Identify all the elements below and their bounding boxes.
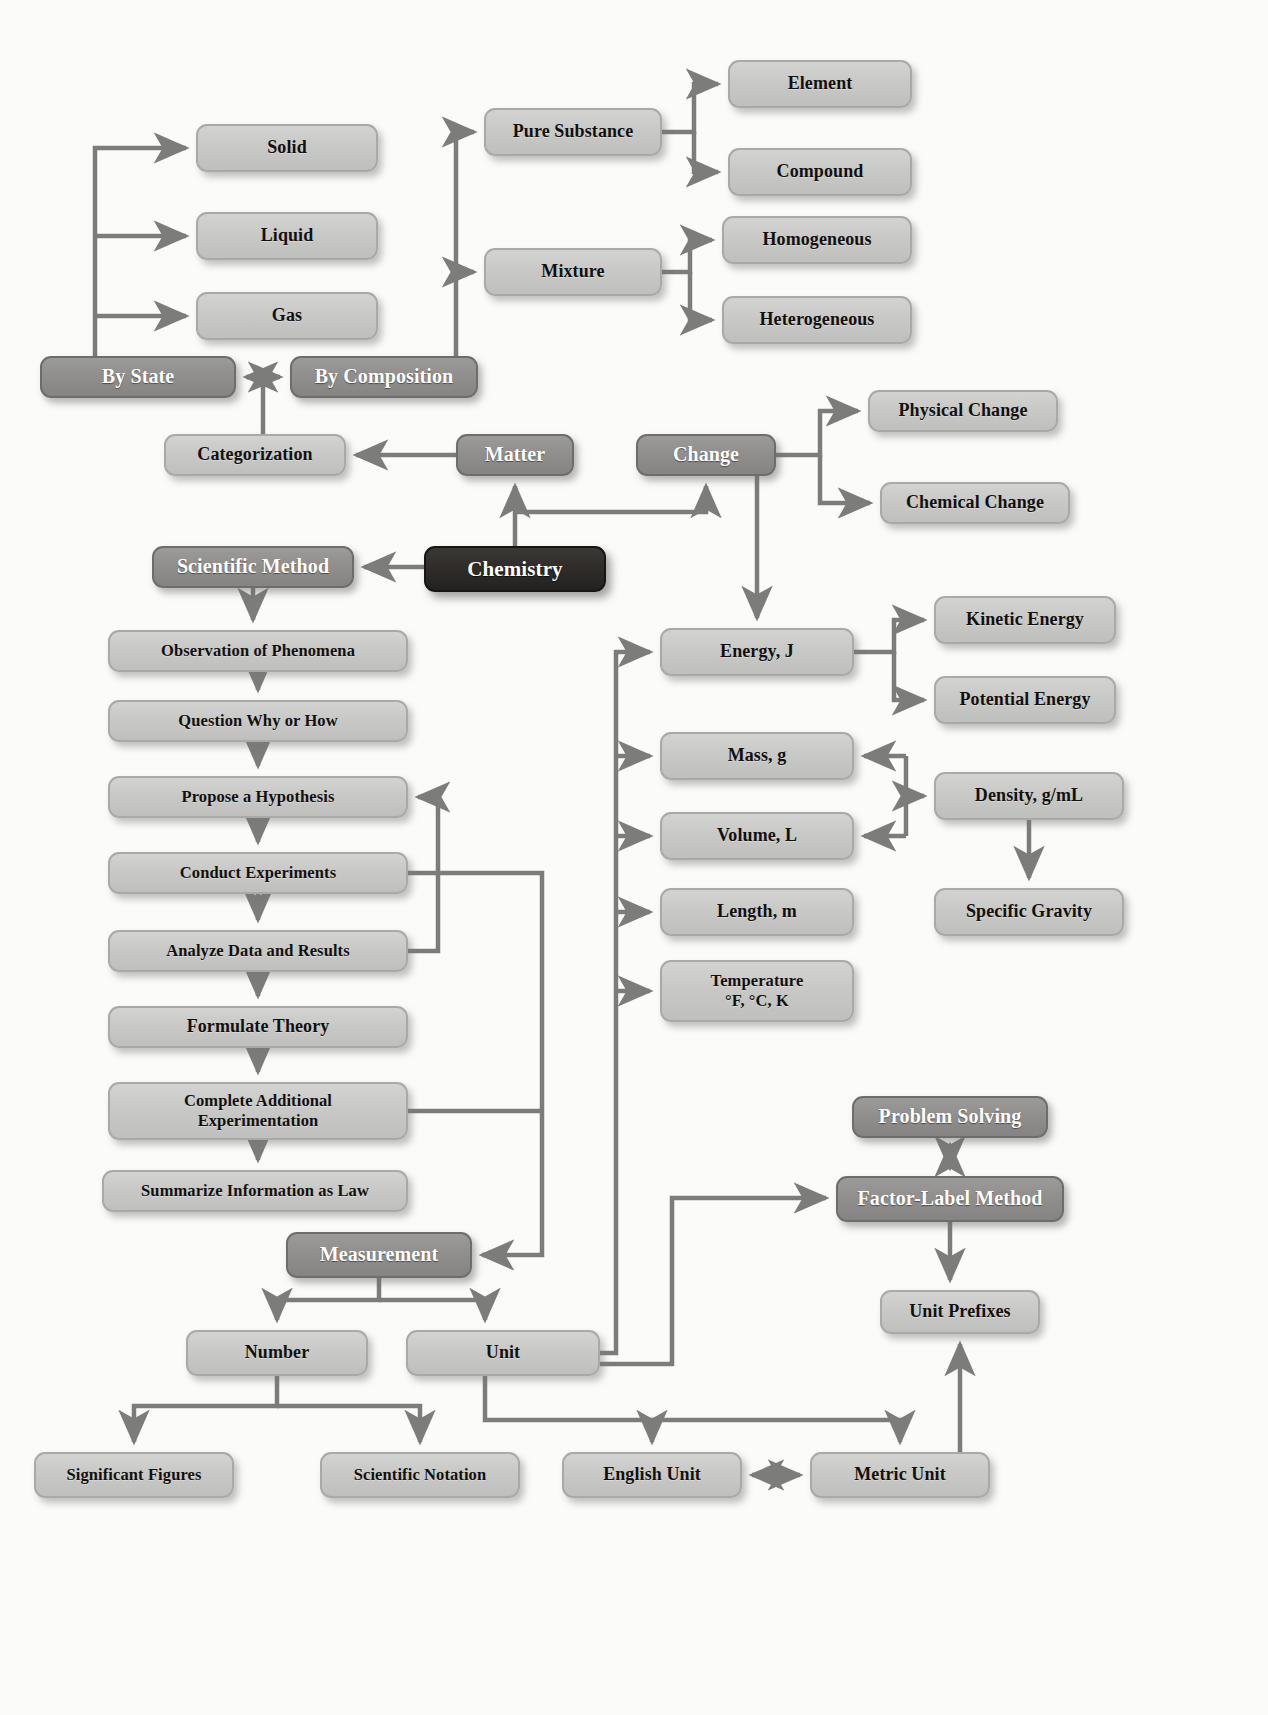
node-measurement[interactable]: Measurement — [286, 1232, 472, 1278]
node-label-by_composition: By Composition — [315, 365, 454, 389]
node-label-temperature: Temperature °F, °C, K — [711, 971, 804, 1011]
node-label-sci_notation: Scientific Notation — [354, 1465, 487, 1484]
node-density[interactable]: Density, g/mL — [934, 772, 1124, 820]
concept-map-canvas: SolidLiquidGasPure SubstanceMixtureEleme… — [0, 0, 1268, 1715]
node-gas[interactable]: Gas — [196, 292, 378, 340]
edge-chemistry-change — [515, 486, 706, 512]
node-mass[interactable]: Mass, g — [660, 732, 854, 780]
node-label-measurement: Measurement — [320, 1243, 438, 1267]
node-kinetic[interactable]: Kinetic Energy — [934, 596, 1116, 644]
node-label-density: Density, g/mL — [975, 785, 1083, 806]
node-label-theory: Formulate Theory — [187, 1016, 330, 1037]
node-label-chemical_change: Chemical Change — [906, 492, 1044, 513]
page-top-edge — [0, 0, 1268, 16]
node-question[interactable]: Question Why or How — [108, 700, 408, 742]
node-hypothesis[interactable]: Propose a Hypothesis — [108, 776, 408, 818]
edge-change-chemical — [820, 455, 870, 503]
node-label-volume: Volume, L — [717, 825, 797, 846]
node-energy[interactable]: Energy, J — [660, 628, 854, 676]
node-analyze[interactable]: Analyze Data and Results — [108, 930, 408, 972]
edge-number-sigfigs — [134, 1376, 277, 1442]
node-label-by_state: By State — [102, 365, 174, 389]
node-theory[interactable]: Formulate Theory — [108, 1006, 408, 1048]
node-label-scientific_method: Scientific Method — [177, 555, 329, 579]
node-label-specific_gravity: Specific Gravity — [966, 901, 1092, 922]
node-label-mixture: Mixture — [541, 261, 604, 282]
node-volume[interactable]: Volume, L — [660, 812, 854, 860]
edge-change-physical — [776, 411, 858, 455]
node-label-matter: Matter — [485, 443, 546, 467]
edge-number-scinotation — [277, 1406, 420, 1442]
node-label-compound: Compound — [777, 161, 864, 182]
node-label-problem_solving: Problem Solving — [879, 1105, 1022, 1129]
node-length[interactable]: Length, m — [660, 888, 854, 936]
node-label-physical_change: Physical Change — [898, 400, 1027, 421]
node-label-mass: Mass, g — [728, 745, 787, 766]
node-label-element: Element — [788, 73, 853, 94]
node-by_composition[interactable]: By Composition — [290, 356, 478, 398]
node-label-english_unit: English Unit — [603, 1464, 701, 1485]
node-categorization[interactable]: Categorization — [164, 434, 346, 476]
node-physical_change[interactable]: Physical Change — [868, 390, 1058, 432]
node-sci_notation[interactable]: Scientific Notation — [320, 1452, 520, 1498]
node-unit_prefixes[interactable]: Unit Prefixes — [880, 1290, 1040, 1334]
edge-pure-element — [662, 84, 718, 132]
node-label-potential: Potential Energy — [959, 689, 1090, 710]
edge-bystate-solid — [95, 148, 186, 356]
node-label-chemistry: Chemistry — [467, 557, 562, 582]
node-label-metric_unit: Metric Unit — [854, 1464, 946, 1485]
node-liquid[interactable]: Liquid — [196, 212, 378, 260]
node-homogeneous[interactable]: Homogeneous — [722, 216, 912, 264]
node-element[interactable]: Element — [728, 60, 912, 108]
node-label-heterogeneous: Heterogeneous — [760, 309, 875, 330]
node-specific_gravity[interactable]: Specific Gravity — [934, 888, 1124, 936]
node-label-number: Number — [245, 1342, 310, 1363]
node-solid[interactable]: Solid — [196, 124, 378, 172]
node-chemistry[interactable]: Chemistry — [424, 546, 606, 592]
edge-experiments-measurement — [408, 873, 542, 1255]
node-label-change: Change — [673, 443, 739, 467]
node-label-kinetic: Kinetic Energy — [966, 609, 1084, 630]
edge-unit-englishunit — [485, 1376, 652, 1442]
node-compound[interactable]: Compound — [728, 148, 912, 196]
node-factor_label[interactable]: Factor-Label Method — [836, 1176, 1064, 1222]
node-heterogeneous[interactable]: Heterogeneous — [722, 296, 912, 344]
node-change[interactable]: Change — [636, 434, 776, 476]
edge-mixture-homogeneous — [662, 240, 712, 272]
node-unit[interactable]: Unit — [406, 1330, 600, 1376]
node-by_state[interactable]: By State — [40, 356, 236, 398]
edge-pure-compound — [694, 132, 718, 172]
node-temperature[interactable]: Temperature °F, °C, K — [660, 960, 854, 1022]
node-label-experiments: Conduct Experiments — [180, 863, 336, 882]
node-label-additional_exp: Complete Additional Experimentation — [184, 1091, 332, 1131]
node-mixture[interactable]: Mixture — [484, 248, 662, 296]
node-pure_substance[interactable]: Pure Substance — [484, 108, 662, 156]
node-observation[interactable]: Observation of Phenomena — [108, 630, 408, 672]
node-label-energy: Energy, J — [720, 641, 794, 662]
edge-unit-metricunit — [652, 1420, 900, 1442]
node-english_unit[interactable]: English Unit — [562, 1452, 742, 1498]
node-metric_unit[interactable]: Metric Unit — [810, 1452, 990, 1498]
node-label-analyze: Analyze Data and Results — [166, 941, 349, 960]
edge-bycomposition-pure — [456, 132, 474, 356]
node-experiments[interactable]: Conduct Experiments — [108, 852, 408, 894]
node-additional_exp[interactable]: Complete Additional Experimentation — [108, 1082, 408, 1140]
node-problem_solving[interactable]: Problem Solving — [852, 1096, 1048, 1138]
node-chemical_change[interactable]: Chemical Change — [880, 482, 1070, 524]
node-potential[interactable]: Potential Energy — [934, 676, 1116, 724]
node-label-factor_label: Factor-Label Method — [857, 1187, 1042, 1211]
node-label-solid: Solid — [267, 137, 307, 158]
node-matter[interactable]: Matter — [456, 434, 574, 476]
node-label-unit: Unit — [486, 1342, 520, 1363]
edge-analyze-hypothesis-feedback — [408, 797, 438, 951]
node-law[interactable]: Summarize Information as Law — [102, 1170, 408, 1212]
node-label-sig_figs: Significant Figures — [67, 1465, 202, 1484]
node-label-hypothesis: Propose a Hypothesis — [182, 787, 335, 806]
node-number[interactable]: Number — [186, 1330, 368, 1376]
edge-measurement-unit — [379, 1300, 485, 1320]
node-scientific_method[interactable]: Scientific Method — [152, 546, 354, 588]
node-label-homogeneous: Homogeneous — [762, 229, 871, 250]
node-sig_figs[interactable]: Significant Figures — [34, 1452, 234, 1498]
node-label-question: Question Why or How — [178, 711, 337, 730]
edge-unit-energy — [600, 652, 650, 1353]
